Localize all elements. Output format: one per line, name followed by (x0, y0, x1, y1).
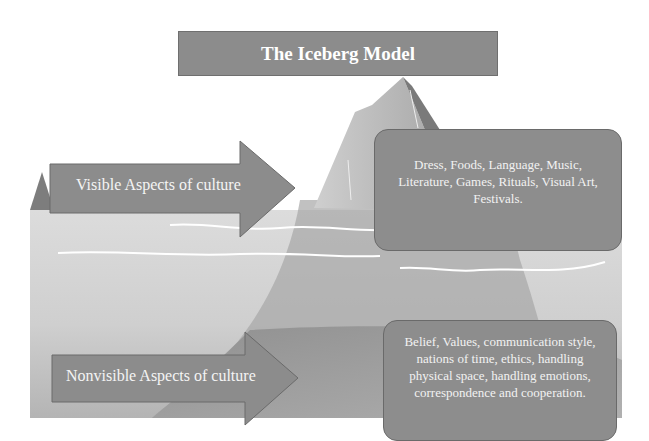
nonvisible-box-line: Belief, Values, communication style, (404, 333, 595, 350)
page-title: The Iceberg Model (178, 31, 498, 76)
visible-box-line: Dress, Foods, Language, Music, (398, 156, 598, 173)
nonvisible-aspects-box: Belief, Values, communication style, nat… (383, 320, 617, 441)
nonvisible-box-line: physical space, handling emotions, (404, 367, 595, 384)
visible-box-line: Literature, Games, Rituals, Visual Art, (398, 173, 598, 190)
nonvisible-box-line: nations of time, ethics, handling (404, 350, 595, 367)
nonvisible-box-line: correspondence and cooperation. (404, 384, 595, 401)
visible-box-line: Festivals. (398, 190, 598, 207)
visible-aspects-box: Dress, Foods, Language, Music, Literatur… (374, 129, 622, 251)
nonvisible-aspects-label: Nonvisible Aspects of culture (66, 367, 256, 385)
visible-aspects-label: Visible Aspects of culture (76, 176, 241, 194)
